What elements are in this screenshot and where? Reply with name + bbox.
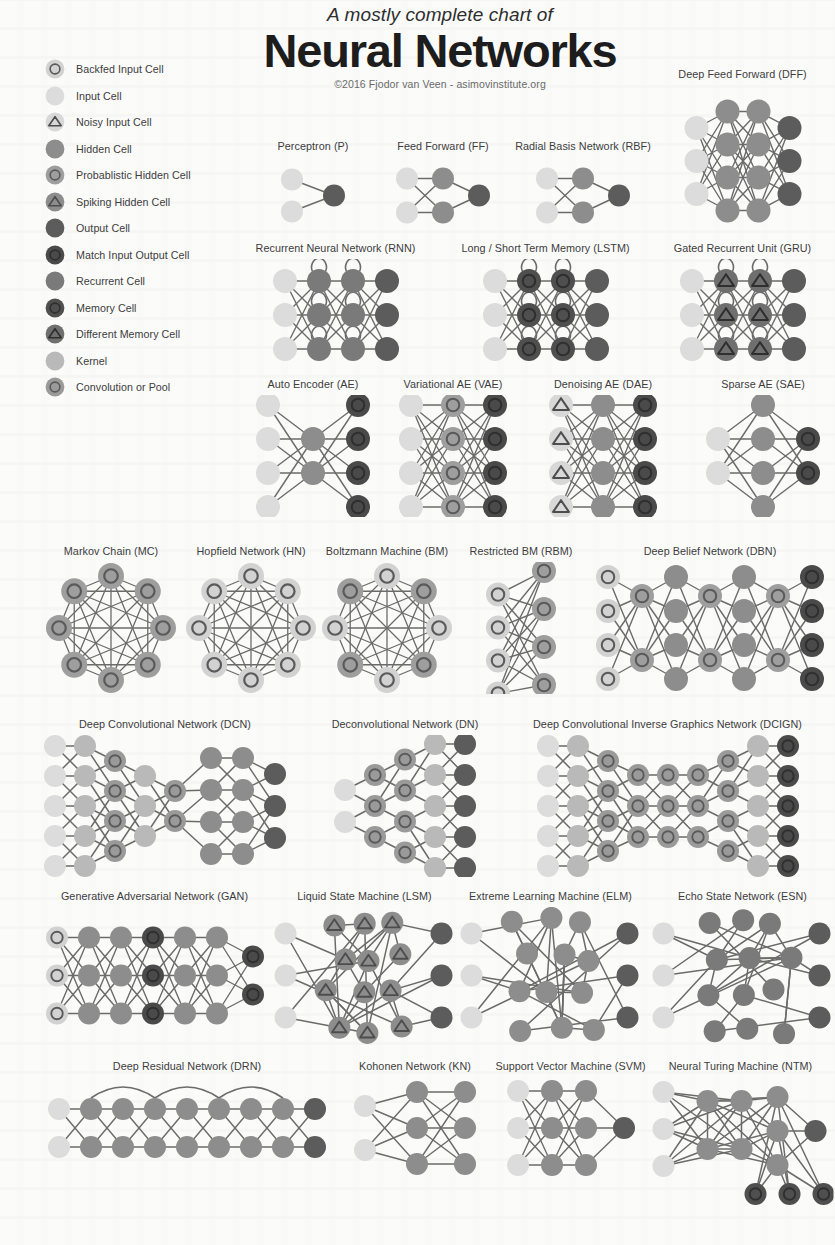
- cell-kernel: [567, 855, 589, 877]
- cell-input: [274, 965, 296, 987]
- cell-hidden: [664, 633, 688, 657]
- cell-noisy: [549, 427, 573, 451]
- legend-swatch-prob-icon: [44, 164, 66, 186]
- cell-input: [680, 269, 704, 293]
- cell-backfed: [275, 652, 301, 678]
- cell-input: [334, 779, 356, 801]
- legend-item-output: Output Cell: [44, 215, 244, 242]
- cell-kernel: [74, 825, 96, 847]
- network-graphic: [310, 735, 500, 877]
- network-graphic: [312, 562, 462, 694]
- cell-output: [777, 182, 801, 206]
- network-title: Gated Recurrent Unit (GRU): [674, 242, 812, 254]
- cell-hidden: [591, 461, 615, 485]
- cell-match: [142, 965, 164, 987]
- cell-input: [274, 923, 296, 945]
- cell-conv: [104, 780, 126, 802]
- legend-item-label: Hidden Cell: [76, 143, 132, 155]
- cell-hidden: [144, 1136, 166, 1158]
- cell-hidden: [664, 667, 688, 691]
- network-diagram-gan: Generative Adversarial Network (GAN): [32, 890, 277, 1045]
- network-graphic: [32, 907, 277, 1044]
- cell-hidden: [577, 950, 599, 972]
- cell-hidden: [540, 907, 562, 929]
- cell-hidden: [176, 1136, 198, 1158]
- cell-input: [46, 86, 65, 105]
- network-title: Boltzmann Machine (BM): [326, 545, 448, 557]
- network-graphic: [368, 157, 518, 234]
- cell-hidden: [746, 133, 770, 157]
- cell-kernel: [424, 826, 446, 848]
- cell-hidden: [732, 599, 756, 623]
- cell-input: [281, 201, 303, 223]
- network-title: Markov Chain (MC): [64, 545, 158, 557]
- cell-backfed: [596, 667, 620, 691]
- network-title: Support Vector Machine (SVM): [495, 1060, 645, 1072]
- network-diagram-lstm: Long / Short Term Memory (LSTM): [448, 242, 643, 372]
- cell-output: [608, 185, 630, 207]
- cell-recurrent: [705, 949, 727, 971]
- cell-hidden: [591, 427, 615, 451]
- legend-swatch-recurrent-icon: [44, 270, 66, 292]
- poster-sheet: A mostly complete chart of Neural Networ…: [0, 0, 835, 1245]
- network-diagram-denoising-ae: Denoising AE (DAE): [528, 378, 678, 518]
- cell-hidden: [232, 811, 254, 833]
- cell-output: [616, 923, 638, 945]
- network-diagram-rnn: Recurrent Neural Network (RNN): [238, 242, 433, 372]
- legend-item-hidden: Hidden Cell: [44, 136, 244, 163]
- cell-conv: [394, 749, 416, 771]
- cell-recurrent: [780, 947, 802, 969]
- cell-conv: [687, 826, 709, 848]
- cell-input: [536, 202, 558, 224]
- cell-prob: [46, 615, 72, 641]
- network-title: Generative Adversarial Network (GAN): [61, 890, 248, 902]
- cell-conv: [364, 795, 386, 817]
- cell-diff_memory: [46, 325, 65, 344]
- cell-kernel: [424, 795, 446, 817]
- network-graphic: [655, 85, 830, 237]
- cell-output: [430, 965, 452, 987]
- cell-match: [633, 461, 657, 485]
- cell-backfed: [596, 565, 620, 589]
- poster-credit: ©2016 Fjodor van Veen - asimovinstitute.…: [230, 78, 650, 90]
- cell-conv: [657, 795, 679, 817]
- legend-swatch-diff-memory-icon: [44, 323, 66, 345]
- legend-item-backfed: Backfed Input Cell: [44, 56, 244, 83]
- cell-input: [460, 965, 482, 987]
- network-diagram-feed-forward: Feed Forward (FF): [368, 140, 518, 235]
- network-title: Kohonen Network (KN): [359, 1060, 471, 1072]
- cell-hidden: [454, 1153, 476, 1175]
- cell-conv: [597, 750, 619, 772]
- cell-output: [468, 185, 490, 207]
- legend-swatch-input-icon: [44, 85, 66, 107]
- cell-input: [273, 337, 297, 361]
- cell-match: [777, 795, 799, 817]
- network-title: Deep Convolutional Inverse Graphics Netw…: [533, 718, 802, 730]
- cell-hidden: [732, 667, 756, 691]
- cell-match: [242, 984, 264, 1006]
- cell-input: [684, 182, 708, 206]
- cell-conv: [364, 764, 386, 786]
- cell-diff_memory: [748, 303, 772, 327]
- cell-input: [281, 169, 303, 191]
- cell-output: [616, 965, 638, 987]
- network-diagram-deep-residual: Deep Residual Network (DRN): [42, 1060, 332, 1180]
- network-diagram-hopfield: Hopfield Network (HN): [176, 545, 326, 695]
- cell-output: [323, 185, 345, 207]
- legend-swatch-backfed-icon: [44, 58, 66, 80]
- network-diagram-dcign: Deep Convolutional Inverse Graphics Netw…: [500, 718, 835, 878]
- network-diagram-deep-convolutional: Deep Convolutional Network (DCN): [30, 718, 300, 878]
- cell-input: [684, 116, 708, 140]
- skip-connection-edge: [155, 1087, 219, 1098]
- legend-swatch-output-icon: [44, 217, 66, 239]
- legend-item-memory: Memory Cell: [44, 295, 244, 322]
- cell-output: [375, 303, 399, 327]
- cell-hidden: [406, 1153, 428, 1175]
- cell-spiking: [381, 912, 403, 934]
- legend-item-recurrent: Recurrent Cell: [44, 268, 244, 295]
- cell-kernel: [747, 765, 769, 787]
- cell-conv: [717, 840, 739, 862]
- cell-input: [273, 269, 297, 293]
- legend-item-label: Convolution or Pool: [76, 381, 170, 393]
- cell-conv: [164, 810, 186, 832]
